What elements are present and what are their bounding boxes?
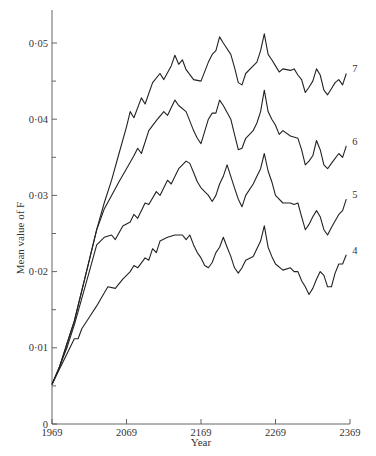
x-tick-label: 2269 [265,427,286,438]
x-tick-label: 2069 [116,427,137,438]
x-axis-title: Year [191,436,212,448]
series-label-4: 4 [352,245,358,256]
series-label-7: 7 [352,63,357,74]
y-axis: 00·010·020·030·040·05 [29,10,57,430]
series-line-5 [52,154,346,385]
series-label-6: 6 [352,136,357,147]
series-group: 7654 [52,34,358,385]
y-tick-label: 0·04 [29,114,49,125]
series-line-7 [52,34,346,385]
x-tick-label: 2369 [340,427,361,438]
series-line-4 [52,226,346,385]
y-tick-label: 0·05 [29,38,48,49]
y-tick-label: 0·03 [29,190,48,201]
y-axis-title: Mean value of F [14,202,26,274]
y-tick-label: 0·01 [29,342,48,353]
series-label-5: 5 [352,189,357,200]
line-chart: 00·010·020·030·040·05 196920692169226923… [0,0,376,456]
y-tick-label: 0·02 [29,266,48,277]
series-line-6 [52,90,346,384]
x-tick-label: 1969 [42,427,63,438]
